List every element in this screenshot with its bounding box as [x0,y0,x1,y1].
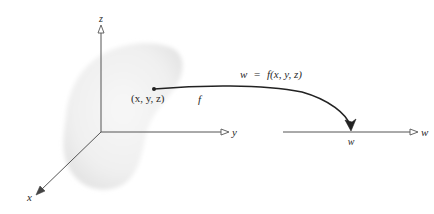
w-axis-label: w [421,126,429,138]
w-axis: w w [283,126,429,147]
equation-label: w = f(x, y, z) [240,68,302,81]
w-point-label: w [348,136,355,147]
point-label: (x, y, z) [131,92,165,105]
equation-rhs: f(x, y, z) [267,68,302,81]
svg-text:w = f(x, y, z): w = f(x, y, z) [240,68,302,81]
mapping-label: f [198,93,203,105]
domain-region [64,43,183,190]
equation-equals: = [254,68,260,80]
x-axis-label: x [26,191,32,203]
function-diagram: z y x (x, y, z) f w = f(x, y, z) w w [0,0,434,214]
z-axis-arrowhead-icon [98,25,104,33]
z-axis-label: z [98,13,103,24]
y-axis-label: y [231,126,237,138]
y-axis-arrowhead-icon [221,129,229,135]
equation-lhs: w [240,68,248,80]
mapping-arrowhead-icon [345,119,356,131]
mapping-arrow: f [154,86,356,131]
w-axis-arrowhead-icon [410,129,418,135]
